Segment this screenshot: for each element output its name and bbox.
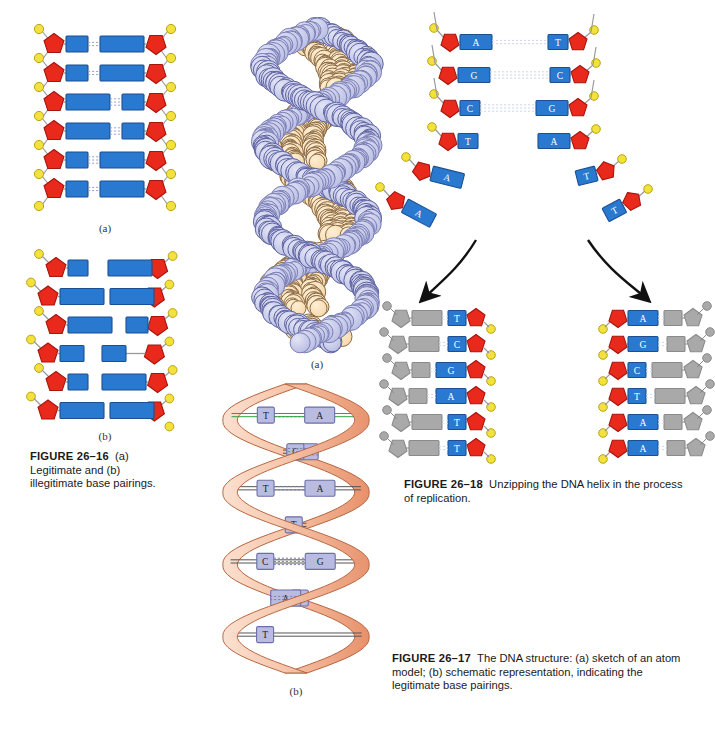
deoxyribose-sugar: [467, 309, 485, 326]
hydrogen-bond-group: [88, 187, 100, 190]
hydrogen-bond-group: [110, 128, 122, 134]
backbone-bond: [605, 400, 610, 405]
template-base-ghost: [655, 389, 685, 404]
phosphate-group: [35, 307, 44, 316]
daughter-base-pair-row: G: [383, 354, 496, 386]
nucleotide-base-letter: C: [634, 366, 640, 376]
hydrogen-bond-group: [658, 342, 667, 345]
parent-helix: ATGCCGTAATAT: [376, 12, 653, 229]
phosphate-group: [402, 153, 411, 162]
nucleotide-base-letter: T: [454, 444, 460, 454]
template-base-ghost: [667, 337, 685, 352]
hydrogen-bond-group: [490, 72, 550, 78]
template-base-ghost: [412, 415, 442, 430]
hydrogen-bond-group: [442, 316, 448, 319]
deoxyribose-sugar: [148, 374, 168, 393]
figure-26-17-panel-b: TAGCTATCGTAT: [196, 378, 396, 683]
phosphate-group: [376, 183, 385, 192]
replication-arrows: [422, 240, 648, 300]
deoxyribose-sugar: [439, 133, 457, 150]
hydrogen-bond-group: [88, 42, 100, 45]
deoxyribose-sugar: [467, 439, 485, 456]
phosphate-group: [166, 82, 175, 91]
hydrogen-bond-group: [274, 558, 305, 564]
hydrogen-bond-group: [439, 446, 448, 449]
base-pair-row: [34, 82, 175, 118]
template-phosphate-ghost: [703, 406, 712, 415]
daughter-base-pair-row: C: [380, 328, 496, 360]
nucleotide-base: [60, 403, 104, 419]
fork-nucleotide-right: T: [575, 160, 617, 186]
phosphate-group: [165, 337, 174, 346]
dna-replication-diagram: ATGCCGTAATATTCGATTAGCTAA: [392, 18, 702, 468]
parent-fork-row: AT: [376, 183, 653, 229]
template-sugar-ghost: [684, 413, 702, 430]
phosphate-group: [34, 169, 43, 178]
deoxyribose-sugar: [46, 258, 66, 277]
deoxyribose-sugar: [609, 388, 627, 405]
template-base-ghost: [412, 363, 430, 378]
deoxyribose-sugar: [569, 99, 587, 116]
figure-26-17-caption-number: FIGURE 26–17: [392, 652, 471, 664]
phosphate-group: [34, 111, 43, 120]
template-base-ghost: [667, 441, 685, 456]
nucleotide-base: [100, 152, 144, 168]
fork-nucleotide-left: A: [411, 161, 465, 190]
nucleotide-base-letter: C: [467, 104, 473, 114]
parent-fork-row: TA: [428, 123, 601, 151]
base-pair-row: [34, 53, 175, 89]
backbone-bond: [484, 400, 489, 405]
base-pair-row: [35, 250, 177, 279]
template-phosphate-ghost: [383, 406, 392, 415]
fork-nucleotide-left: A: [384, 190, 437, 229]
nucleotide-base: [66, 65, 88, 81]
helix-base-letter: T: [263, 411, 269, 421]
figure-26-18-caption-number: FIGURE 26–18: [404, 478, 483, 490]
base-pair-row: [27, 278, 174, 307]
base-pair-row: [34, 24, 175, 60]
base-pair-row: [35, 364, 177, 393]
helix-base-letter: T: [263, 484, 269, 494]
figure-26-16-caption: FIGURE 26–16 (a) Legitimate and (b) ille…: [30, 450, 175, 491]
phosphate-group: [34, 140, 43, 149]
deoxyribose-sugar: [146, 181, 166, 200]
deoxyribose-sugar: [38, 343, 58, 362]
nucleotide-base-letter: G: [640, 340, 647, 350]
nucleotide-base-letter: T: [454, 418, 460, 428]
phosphate-group: [166, 24, 175, 33]
hydrogen-bond-group: [110, 99, 122, 105]
base-pair-row: [27, 392, 174, 431]
hydrogen-bond-group: [658, 316, 664, 319]
phosphate-group: [165, 394, 174, 403]
deoxyribose-sugar: [571, 132, 589, 149]
figure-26-18-caption: FIGURE 26–18 Unzipping the DNA helix in …: [404, 478, 694, 505]
phosphate-group: [166, 201, 175, 210]
fork-nucleotide-right: A: [538, 132, 589, 149]
figure-26-17-panel-b-label: (b): [196, 685, 396, 697]
template-phosphate-ghost: [383, 302, 392, 311]
nucleotide-base: [122, 123, 144, 139]
deoxyribose-sugar: [146, 123, 166, 142]
template-phosphate-ghost: [706, 328, 715, 337]
daughter-base-pair-row: A: [599, 406, 712, 438]
legitimate-pairings-diagram: [20, 22, 190, 222]
nucleotide-base-letter: T: [634, 392, 640, 402]
sugar-phosphate-backbone-ribbon: [223, 384, 369, 673]
deoxyribose-sugar: [467, 361, 485, 378]
nucleotide-base: [68, 374, 88, 390]
parent-base-pair-row: GC: [428, 45, 601, 85]
nucleotide-base: [110, 403, 154, 419]
phosphate-group: [34, 201, 43, 210]
template-phosphate-ghost: [703, 302, 712, 311]
template-sugar-ghost: [687, 387, 705, 404]
helix-base-letter: C: [262, 557, 268, 567]
hydrogen-bond-group: [658, 446, 667, 449]
parent-base-pair-row: AT: [430, 12, 599, 52]
base-atom: [310, 300, 327, 317]
deoxyribose-sugar: [439, 67, 457, 84]
hydrogen-bond-group: [492, 40, 548, 43]
phosphate-group: [34, 53, 43, 62]
phosphate-group: [35, 364, 44, 373]
deoxyribose-sugar: [609, 310, 627, 327]
deoxyribose-sugar: [146, 152, 166, 171]
